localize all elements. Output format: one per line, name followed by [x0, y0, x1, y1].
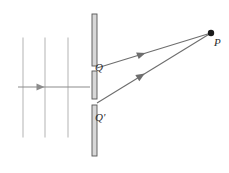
label-point-P: P	[214, 37, 221, 48]
figure-canvas	[0, 0, 229, 173]
barrier-group	[92, 14, 97, 156]
barrier-segment-middle	[92, 71, 97, 99]
incident-ray-group	[18, 84, 90, 91]
label-slit-Q: Q	[95, 62, 103, 73]
label-slit-Q-prime: Q'	[95, 112, 105, 123]
ray-Qprime-to-P	[97, 33, 211, 103]
incident-ray-arrowhead	[37, 84, 45, 91]
ray-Q-to-P	[97, 33, 211, 68]
diffracted-ray-group	[97, 33, 211, 103]
physics-figure-double-slit: Q Q' P	[0, 0, 229, 173]
barrier-segment-top	[92, 14, 97, 66]
ray-Q-to-P-arrowhead	[136, 52, 146, 59]
ray-Qprime-to-P-arrowhead	[135, 74, 145, 82]
